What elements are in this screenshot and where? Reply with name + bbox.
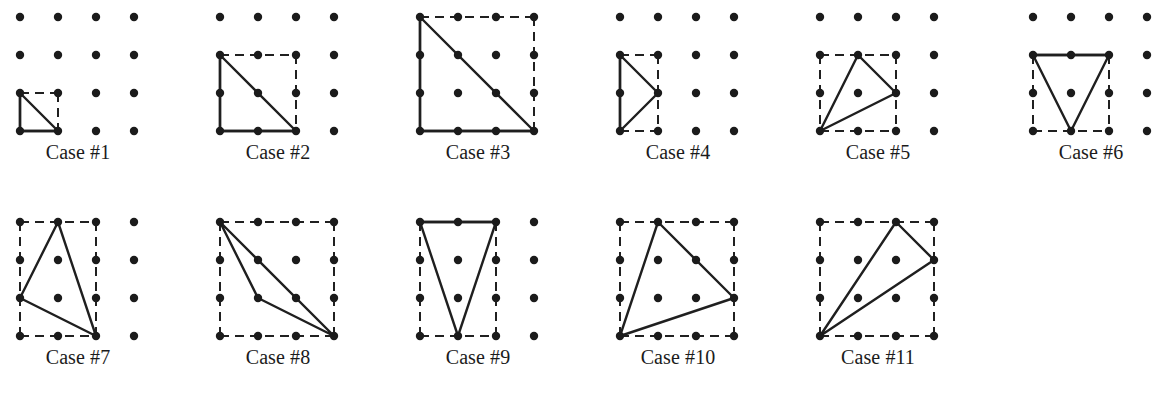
lattice-dot bbox=[16, 13, 24, 21]
lattice-dot bbox=[654, 51, 662, 59]
lattice-dot bbox=[216, 13, 224, 21]
lattice-dot bbox=[816, 256, 824, 264]
lattice-dot bbox=[1105, 51, 1113, 59]
case-panel bbox=[6, 3, 148, 145]
lattice-dot bbox=[892, 89, 900, 97]
case-label: Case #4 bbox=[598, 142, 758, 162]
lattice-dot bbox=[816, 127, 824, 135]
lattice-dot bbox=[692, 294, 700, 302]
lattice-dot bbox=[1067, 89, 1075, 97]
lattice-dot bbox=[130, 294, 138, 302]
lattice-dot bbox=[530, 89, 538, 97]
lattice-dot bbox=[692, 51, 700, 59]
lattice-dot bbox=[1067, 51, 1075, 59]
case-label: Case #11 bbox=[798, 347, 958, 367]
case-label: Case #10 bbox=[598, 347, 758, 367]
case-panel bbox=[206, 208, 348, 350]
lattice-dot bbox=[292, 256, 300, 264]
lattice-dot bbox=[892, 332, 900, 340]
lattice-dot bbox=[654, 13, 662, 21]
lattice-dot bbox=[854, 294, 862, 302]
lattice-dot bbox=[54, 294, 62, 302]
lattice-dot bbox=[930, 256, 938, 264]
lattice-dot bbox=[330, 332, 338, 340]
lattice-dot bbox=[254, 13, 262, 21]
case-label: Case #8 bbox=[198, 347, 358, 367]
lattice-dot bbox=[216, 89, 224, 97]
lattice-dot bbox=[454, 332, 462, 340]
bounding-box bbox=[620, 55, 658, 131]
case-diagram bbox=[806, 208, 948, 350]
case-diagram bbox=[206, 3, 348, 145]
lattice-dot bbox=[1143, 89, 1151, 97]
lattice-dot bbox=[416, 294, 424, 302]
lattice-dot bbox=[616, 332, 624, 340]
lattice-dot bbox=[330, 127, 338, 135]
lattice-dot bbox=[216, 294, 224, 302]
lattice-dot bbox=[816, 13, 824, 21]
lattice-dot bbox=[530, 332, 538, 340]
lattice-dot bbox=[854, 332, 862, 340]
lattice-dot bbox=[730, 51, 738, 59]
lattice-dot bbox=[1105, 13, 1113, 21]
case-diagram bbox=[406, 3, 548, 145]
lattice-dot bbox=[416, 13, 424, 21]
lattice-dot bbox=[892, 218, 900, 226]
lattice-dot bbox=[254, 51, 262, 59]
lattice-dot bbox=[292, 89, 300, 97]
lattice-dot bbox=[454, 89, 462, 97]
lattice-dot bbox=[130, 218, 138, 226]
case-diagram bbox=[606, 208, 748, 350]
bounding-box bbox=[420, 222, 496, 336]
lattice-dot bbox=[492, 13, 500, 21]
lattice-dot bbox=[292, 218, 300, 226]
lattice-dot bbox=[854, 218, 862, 226]
lattice-dot bbox=[292, 332, 300, 340]
lattice-dot bbox=[254, 218, 262, 226]
lattice-dot bbox=[854, 127, 862, 135]
lattice-dot bbox=[454, 13, 462, 21]
lattice-dot bbox=[492, 127, 500, 135]
lattice-dot bbox=[892, 51, 900, 59]
lattice-dot bbox=[254, 332, 262, 340]
lattice-dot bbox=[254, 256, 262, 264]
lattice-dot bbox=[216, 256, 224, 264]
case-label: Case #2 bbox=[198, 142, 358, 162]
lattice-dot bbox=[530, 256, 538, 264]
lattice-dot bbox=[816, 89, 824, 97]
lattice-dot bbox=[616, 89, 624, 97]
lattice-dot bbox=[292, 127, 300, 135]
lattice-dot bbox=[1029, 127, 1037, 135]
lattice-dot-grid bbox=[816, 218, 938, 340]
lattice-dot-grid bbox=[1029, 13, 1151, 135]
lattice-dot bbox=[16, 332, 24, 340]
case-diagram bbox=[406, 208, 548, 350]
lattice-dot bbox=[330, 89, 338, 97]
lattice-dot bbox=[692, 89, 700, 97]
lattice-dot bbox=[692, 127, 700, 135]
lattice-dot bbox=[254, 89, 262, 97]
lattice-dot bbox=[330, 294, 338, 302]
lattice-dot bbox=[854, 89, 862, 97]
lattice-dot bbox=[254, 294, 262, 302]
lattice-dot bbox=[1105, 127, 1113, 135]
triangle-outline bbox=[220, 222, 334, 336]
lattice-dot bbox=[54, 332, 62, 340]
lattice-dot bbox=[54, 13, 62, 21]
lattice-dot bbox=[292, 51, 300, 59]
case-label: Case #3 bbox=[398, 142, 558, 162]
lattice-dot bbox=[854, 256, 862, 264]
lattice-dot bbox=[454, 51, 462, 59]
lattice-dot bbox=[616, 127, 624, 135]
case-panel bbox=[406, 208, 548, 350]
lattice-dot bbox=[130, 89, 138, 97]
lattice-dot bbox=[54, 89, 62, 97]
lattice-dot bbox=[492, 89, 500, 97]
lattice-dot bbox=[16, 51, 24, 59]
lattice-dot bbox=[216, 127, 224, 135]
lattice-dot bbox=[730, 332, 738, 340]
lattice-dot bbox=[816, 218, 824, 226]
lattice-dot bbox=[216, 218, 224, 226]
lattice-dot bbox=[130, 332, 138, 340]
lattice-dot bbox=[454, 127, 462, 135]
